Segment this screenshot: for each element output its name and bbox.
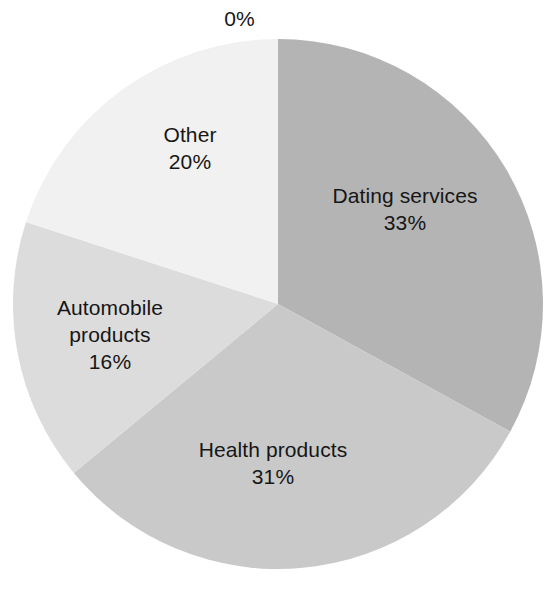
pie-chart-canvas (0, 0, 551, 589)
pie-chart: 0% Dating services 33% Health products 3… (0, 0, 551, 589)
pie-slice-group (13, 39, 543, 569)
